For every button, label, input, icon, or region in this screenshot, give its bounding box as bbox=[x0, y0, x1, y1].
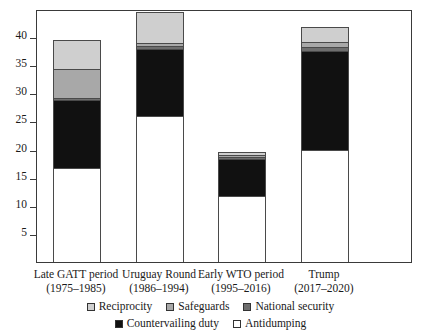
plot-area bbox=[36, 10, 412, 263]
y-axis-tick-label: 20 bbox=[16, 143, 28, 155]
legend-swatch-icon bbox=[87, 303, 95, 311]
bar-segment-reciprocity bbox=[137, 13, 183, 44]
bar-segment-countervailing-duty bbox=[137, 49, 183, 116]
y-axis-tick-label: 5 bbox=[21, 227, 27, 239]
legend-label: Safeguards bbox=[178, 300, 229, 312]
legend-item[interactable]: Antidumping bbox=[233, 316, 306, 331]
bar-segment-safeguards bbox=[54, 69, 100, 98]
legend-label: National security bbox=[255, 300, 334, 312]
bar-segment-reciprocity bbox=[54, 41, 100, 69]
y-axis-tick-label: 15 bbox=[16, 171, 28, 183]
legend-label: Countervailing duty bbox=[127, 317, 219, 329]
y-axis-tick-label: 35 bbox=[16, 58, 28, 70]
legend-item[interactable]: Reciprocity bbox=[87, 299, 153, 314]
bar-segment-antidumping bbox=[302, 150, 348, 262]
legend-label: Antidumping bbox=[245, 317, 306, 329]
y-axis-tick-label: 30 bbox=[16, 86, 28, 98]
chart-legend: ReciprocitySafeguardsNational security C… bbox=[0, 297, 421, 331]
legend-row-2: Countervailing dutyAntidumping bbox=[0, 314, 421, 331]
legend-item[interactable]: National security bbox=[243, 299, 334, 314]
x-axis-label: Trump(2017–2020) bbox=[254, 268, 394, 295]
x-axis-label-years: (2017–2020) bbox=[254, 282, 394, 296]
bar bbox=[136, 12, 184, 262]
bar-segment-antidumping bbox=[54, 168, 100, 262]
y-axis-tick-label: 10 bbox=[16, 199, 28, 211]
y-axis-tick-label: 40 bbox=[16, 30, 28, 42]
y-axis-tick-label: 25 bbox=[16, 114, 28, 126]
legend-item[interactable]: Countervailing duty bbox=[115, 316, 219, 331]
legend-label: Reciprocity bbox=[99, 300, 153, 312]
legend-swatch-icon bbox=[243, 303, 251, 311]
legend-swatch-icon bbox=[115, 320, 123, 328]
bar bbox=[53, 40, 101, 262]
legend-swatch-icon bbox=[166, 303, 174, 311]
bar bbox=[301, 27, 349, 262]
legend-swatch-icon bbox=[233, 320, 241, 328]
bar-segment-reciprocity bbox=[302, 28, 348, 41]
bar-segment-antidumping bbox=[137, 116, 183, 262]
bar bbox=[218, 152, 266, 262]
bar-segment-countervailing-duty bbox=[54, 100, 100, 168]
bar-segment-countervailing-duty bbox=[302, 51, 348, 150]
x-axis-label-name: Trump bbox=[254, 268, 394, 282]
bar-segment-countervailing-duty bbox=[219, 159, 265, 196]
legend-item[interactable]: Safeguards bbox=[166, 299, 229, 314]
legend-row-1: ReciprocitySafeguardsNational security bbox=[0, 297, 421, 314]
bar-segment-antidumping bbox=[219, 196, 265, 262]
stacked-bar-chart: 403530252015105 Late GATT period(1975–19… bbox=[0, 0, 421, 333]
